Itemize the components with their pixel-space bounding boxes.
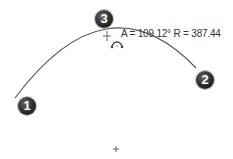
arc-cursor-icon [111,42,124,48]
point-2-badge: 2 [196,71,214,89]
point-1-badge: 1 [18,97,36,115]
sketch-canvas[interactable]: A = 109.12° R = 387.44 1 2 3 [0,0,233,159]
cursor-crosshair-icon [103,31,111,41]
center-point-icon [113,146,119,152]
arc-dimension-label: A = 109.12° R = 387.44 [121,28,221,39]
point-3-badge: 3 [95,10,113,28]
